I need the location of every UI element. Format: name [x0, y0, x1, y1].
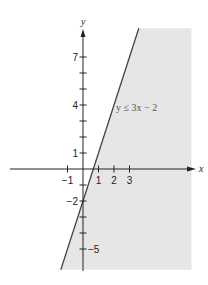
inequality-label: y ≤ 3x − 2	[116, 102, 157, 113]
x-tick-label: 2	[111, 175, 117, 186]
y-tick-label: −5	[88, 244, 100, 255]
y-tick-label: 1	[72, 148, 78, 159]
y-axis-label: y	[80, 16, 86, 27]
x-tick-label: 1	[96, 175, 102, 186]
x-tick-label: 3	[127, 175, 133, 186]
inequality-graph: −1123 741−2−5 x y y ≤ 3x − 2	[0, 0, 208, 285]
y-tick-label: −2	[67, 196, 79, 207]
y-tick-label: 7	[72, 52, 78, 63]
x-tick-label: −1	[62, 175, 74, 186]
y-axis-arrow-icon	[81, 29, 86, 37]
shaded-region	[61, 28, 192, 270]
y-tick-label: 4	[72, 100, 78, 111]
x-axis-label: x	[198, 163, 204, 174]
